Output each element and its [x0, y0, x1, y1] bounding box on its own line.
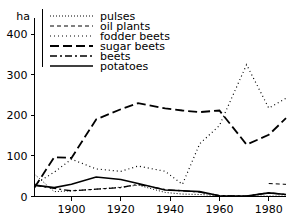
- legend-label-potatoes: potatoes: [100, 60, 149, 73]
- y-tick-label: 100: [7, 150, 28, 163]
- x-tick-label: 1960: [205, 203, 233, 216]
- line-chart: 0100200300400 19001920194019601980 ha pu…: [0, 0, 289, 217]
- y-tick-label: 200: [7, 109, 28, 122]
- chart-container: 0100200300400 19001920194019601980 ha pu…: [0, 0, 289, 217]
- x-tick-label: 1900: [57, 203, 85, 216]
- x-tick-label: 1940: [156, 203, 184, 216]
- series-line-beets: [35, 184, 287, 196]
- x-tick-label: 1920: [107, 203, 135, 216]
- x-axis-ticks: 19001920194019601980: [57, 197, 282, 216]
- series-line-pulses: [35, 174, 287, 196]
- chart-legend: pulsesoil plantsfodder beetssugar beetsb…: [43, 9, 171, 73]
- y-tick-label: 300: [7, 69, 28, 82]
- series-line-fodder-beets: [35, 65, 287, 185]
- series-line-potatoes: [35, 177, 287, 196]
- series-line-sugar-beets: [35, 103, 287, 187]
- y-axis-ticks: 0100200300400: [7, 28, 35, 203]
- x-tick-label: 1980: [255, 203, 283, 216]
- y-tick-label: 0: [21, 191, 28, 204]
- series-line-oil-plants: [269, 184, 286, 185]
- y-axis-unit-label: ha: [16, 10, 30, 23]
- data-series-group: [35, 65, 287, 196]
- y-tick-label: 400: [7, 28, 28, 41]
